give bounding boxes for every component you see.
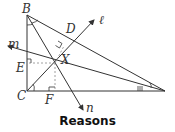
label-line-l: ℓ xyxy=(99,13,104,27)
side-ba xyxy=(27,15,165,91)
line-m xyxy=(8,46,165,91)
label-line-n: n xyxy=(86,101,94,115)
label-d: D xyxy=(65,22,76,36)
label-line-m: m xyxy=(8,37,19,51)
label-c: C xyxy=(17,89,26,103)
caption-reasons: Reasons xyxy=(0,114,175,128)
label-e: E xyxy=(15,61,25,75)
right-angle-d xyxy=(56,41,63,48)
triangle-diagram: B C D E F X ℓ m n xyxy=(0,0,175,132)
angle-mark-b1 xyxy=(27,24,33,25)
label-b: B xyxy=(21,2,31,16)
triangle xyxy=(27,15,165,91)
right-angle-e xyxy=(27,59,31,63)
label-x: X xyxy=(60,53,70,67)
angle-mark-b2 xyxy=(32,20,38,23)
label-f: F xyxy=(44,93,54,107)
angle-mark-a1 xyxy=(138,86,142,91)
right-angle-f xyxy=(49,87,55,91)
